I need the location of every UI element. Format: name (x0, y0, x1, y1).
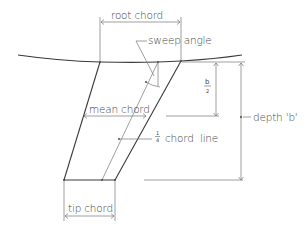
half-span-dimension: b 2 (166, 62, 245, 116)
fuselage-curve (18, 55, 242, 62)
wing-planform-diagram: root chord sweep angle mean chord 1 4 ch… (0, 0, 305, 230)
sweep-angle-annotation: sweep angle (136, 34, 212, 87)
mean-chord-label: mean chord (89, 103, 150, 115)
root-chord-label: root chord (111, 9, 163, 21)
sweep-angle-label: sweep angle (148, 34, 212, 46)
tip-chord-dimension: tip chord (64, 181, 115, 221)
depth-label: depth 'b' (253, 111, 298, 123)
half-span-denominator: 2 (206, 88, 209, 94)
half-span-numerator: b (205, 78, 210, 86)
quarter-chord-label: chord line (165, 132, 218, 144)
tip-chord-label: tip chord (68, 202, 113, 214)
mean-chord-dimension: mean chord (84, 103, 150, 119)
depth-dimension: depth 'b' (144, 63, 298, 180)
svg-text:4: 4 (156, 137, 159, 143)
wing-outline (63, 60, 182, 181)
quarter-chord-annotation: 1 4 chord line (118, 130, 218, 144)
svg-text:1: 1 (156, 130, 159, 136)
quarter-chord-line (102, 62, 158, 180)
trailing-edge (115, 61, 181, 180)
leading-edge (64, 62, 100, 180)
